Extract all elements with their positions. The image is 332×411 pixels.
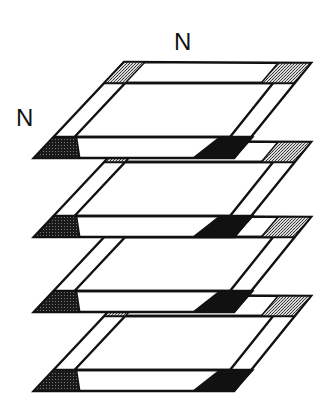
corner-patch-bottom-left (34, 370, 80, 391)
corner-patch-bottom-left (34, 216, 80, 237)
corner-patch-bottom-left (34, 137, 80, 158)
layered-grid-diagram: N N (0, 0, 332, 411)
left-dimension-label: N (16, 106, 33, 130)
top-dimension-label: N (174, 30, 191, 54)
corner-patch-bottom-left (34, 291, 80, 312)
stacked-layers-figure (0, 0, 332, 411)
